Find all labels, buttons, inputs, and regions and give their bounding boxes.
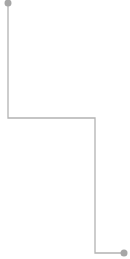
connector-line[interactable] xyxy=(8,3,124,253)
diagram-canvas xyxy=(0,0,130,259)
connector-start-handle-icon[interactable] xyxy=(5,0,12,7)
elbow-connector[interactable] xyxy=(0,0,130,259)
connector-end-handle-icon[interactable] xyxy=(121,250,128,257)
